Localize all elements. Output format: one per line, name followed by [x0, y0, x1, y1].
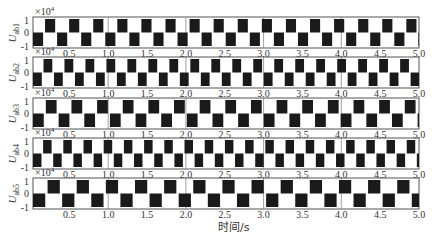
- wave-positive-pulse: [358, 59, 367, 73]
- wave-negative-pulse: [154, 154, 162, 168]
- wave-negative-pulse: [117, 73, 126, 87]
- wave-positive-pulse: [84, 140, 92, 154]
- wave-positive-pulse: [46, 100, 57, 114]
- wave-negative-pulse: [346, 33, 356, 47]
- wave-negative-pulse: [390, 73, 399, 87]
- wave-positive-pulse: [71, 100, 82, 114]
- wave-negative-pulse: [96, 73, 105, 87]
- y-tick-label: 0: [24, 67, 29, 78]
- y-tick-label: 1: [24, 55, 29, 66]
- wave-negative-pulse: [356, 154, 364, 168]
- wave-negative-pulse: [120, 194, 132, 208]
- wave-negative-pulse: [383, 194, 395, 208]
- wave-negative-pulse: [138, 73, 147, 87]
- wave-positive-pulse: [148, 100, 159, 114]
- wave-negative-pulse: [75, 73, 84, 87]
- wave-negative-pulse: [394, 33, 404, 47]
- x-tick-label: 4.5: [374, 88, 387, 99]
- x-tick-label: 1.0: [102, 88, 115, 99]
- wave-negative-pulse: [235, 154, 243, 168]
- wave-positive-pulse: [382, 19, 392, 33]
- y-tick-label: 0: [24, 188, 29, 199]
- wave-positive-pulse: [339, 180, 351, 194]
- x-tick-label: 1.0: [102, 209, 115, 220]
- wave-negative-pulse: [187, 114, 198, 128]
- wave-negative-pulse: [195, 154, 203, 168]
- wave-positive-pulse: [407, 140, 415, 154]
- wave-negative-pulse: [161, 114, 172, 128]
- wave-negative-pulse: [255, 154, 263, 168]
- y-tick-label: 1: [24, 136, 29, 147]
- wave-positive-pulse: [123, 100, 134, 114]
- wave-positive-pulse: [43, 59, 52, 73]
- wave-negative-pulse: [238, 114, 249, 128]
- x-tick-label: 4.5: [374, 209, 387, 220]
- wave-positive-pulse: [346, 140, 354, 154]
- wave-negative-pulse: [208, 194, 220, 208]
- x-tick-label: 1.5: [141, 88, 154, 99]
- wave-negative-pulse: [250, 33, 260, 47]
- wave-positive-pulse: [286, 140, 294, 154]
- y-axis-label: Uab5: [6, 184, 21, 204]
- y-axis-label: Uab3: [6, 104, 21, 124]
- wave-negative-pulse: [417, 154, 419, 168]
- wave-negative-pulse: [84, 114, 95, 128]
- y-tick-label: 0: [24, 108, 29, 119]
- wave-positive-pulse: [148, 59, 157, 73]
- x-tick-label: 4.0: [335, 209, 348, 220]
- wave-negative-pulse: [418, 33, 419, 47]
- wave-negative-pulse: [243, 73, 252, 87]
- wave-positive-pulse: [286, 19, 296, 33]
- wave-positive-pulse: [265, 140, 273, 154]
- wave-positive-pulse: [225, 140, 233, 154]
- wave-positive-pulse: [358, 19, 368, 33]
- wave-positive-pulse: [222, 180, 234, 194]
- x-tick-label: 0.5: [63, 209, 76, 220]
- wave-negative-pulse: [327, 73, 336, 87]
- wave-positive-pulse: [277, 100, 288, 114]
- wave-negative-pulse: [180, 73, 189, 87]
- wave-positive-pulse: [251, 100, 262, 114]
- wave-positive-pulse: [106, 59, 115, 73]
- wave-negative-pulse: [348, 73, 357, 87]
- wave-positive-pulse: [232, 59, 241, 73]
- wave-negative-pulse: [397, 154, 405, 168]
- wave-positive-pulse: [295, 59, 304, 73]
- wave-positive-pulse: [190, 19, 200, 33]
- wave-negative-pulse: [418, 114, 419, 128]
- wave-negative-pulse: [110, 114, 121, 128]
- wave-negative-pulse: [33, 33, 43, 47]
- x-tick-label: 2.0: [180, 209, 193, 220]
- wave-positive-pulse: [400, 59, 409, 73]
- wave-positive-pulse: [379, 100, 390, 114]
- wave-negative-pulse: [336, 154, 344, 168]
- wave-negative-pulse: [54, 73, 63, 87]
- wave-negative-pulse: [341, 114, 352, 128]
- wave-positive-pulse: [405, 100, 416, 114]
- x-tick-label: 2.0: [180, 88, 193, 99]
- wave-negative-pulse: [412, 194, 419, 208]
- wave-negative-pulse: [33, 114, 44, 128]
- wave-positive-pulse: [316, 59, 325, 73]
- wave-negative-pulse: [159, 73, 168, 87]
- wave-negative-pulse: [296, 154, 304, 168]
- wave-negative-pulse: [114, 154, 122, 168]
- wave-negative-pulse: [91, 194, 103, 208]
- y-tick-label: 0: [24, 148, 29, 159]
- y-scale-label: ×104: [35, 86, 55, 98]
- y-scale-label: ×104: [35, 5, 55, 17]
- wave-positive-pulse: [45, 19, 55, 33]
- y-scale-label: ×104: [35, 126, 55, 138]
- wave-positive-pulse: [190, 59, 199, 73]
- wave-negative-pulse: [33, 73, 42, 87]
- y-scale-label: ×104: [35, 166, 55, 178]
- wave-positive-pulse: [302, 100, 313, 114]
- wave-positive-pulse: [174, 100, 185, 114]
- x-tick-label: 3.5: [296, 209, 309, 220]
- wave-positive-pulse: [165, 19, 175, 33]
- wave-negative-pulse: [179, 194, 191, 208]
- y-axis-label: Uab4: [6, 144, 21, 164]
- x-axis-label: 时间/s: [218, 218, 249, 234]
- y-tick-label: 1: [24, 96, 29, 107]
- wave-negative-pulse: [237, 194, 249, 208]
